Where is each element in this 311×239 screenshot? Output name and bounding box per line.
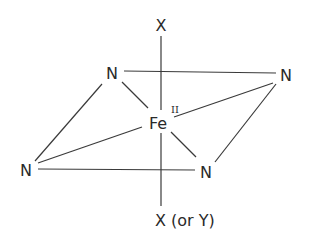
n-bottom-left-label: N [20, 161, 32, 180]
bond-fe-n-top-left [122, 82, 148, 108]
fe-center-label: Fe [149, 114, 167, 133]
edge-top [124, 71, 276, 73]
bond-fe-n-bottom-left [38, 127, 142, 163]
edge-bottom [38, 169, 195, 170]
edge-right [215, 84, 276, 162]
axial-top-label: X [156, 16, 167, 35]
bond-fe-n-bottom-right [171, 132, 196, 157]
n-top-right-label: N [280, 66, 292, 85]
n-top-left-label: N [106, 64, 118, 83]
edge-left [35, 84, 102, 161]
oxidation-state-label: II [171, 104, 179, 115]
bond-fe-n-top-right [174, 83, 273, 117]
n-bottom-right-label: N [200, 163, 212, 182]
fe-coordination-diagram: X N N N N Fe II X (or Y) [0, 0, 311, 239]
axial-bottom-label: X (or Y) [155, 211, 215, 230]
